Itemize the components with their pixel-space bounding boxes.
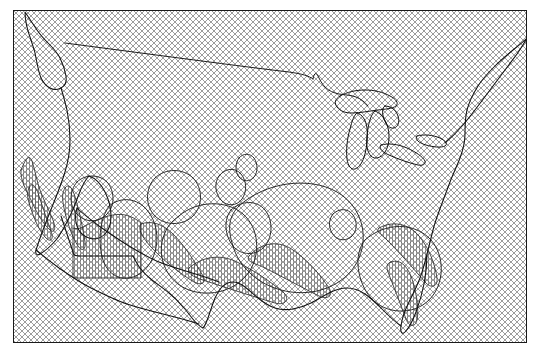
coastline-mexico-west [36,250,199,324]
border-mexico-straight [73,252,133,256]
coastline-northeast [427,38,527,254]
lake-superior [335,90,397,113]
lake-michigan [347,113,368,169]
coastline-pacific-northwest [25,12,66,90]
map-axes [13,10,527,343]
border-st-lawrence [445,38,527,143]
coastline-baja-gulf [77,208,219,282]
us-map-outline [13,10,527,343]
coastline-rio-grande-mouth [183,307,203,328]
lake-ontario [416,135,446,147]
coastline-gulf-east [293,288,401,326]
border-rio-grande [133,256,183,307]
border-us-canada-49th [65,43,313,79]
figure-canvas [0,0,540,354]
coastline-florida [401,254,427,333]
coastline-baja-north [76,176,112,239]
coastline-texas-gulf [203,282,293,328]
lake-huron [367,111,389,158]
lake-erie [380,144,425,165]
coastline-california [36,88,89,255]
